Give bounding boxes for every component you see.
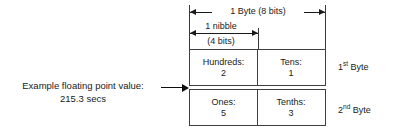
pointer-arrow-shaft [161,87,183,88]
extension-line-nibble [258,28,259,49]
byte-row-1: Hundreds: 2 Tens: 1 [189,49,326,86]
byte-dimension-label: 1 Byte (8 bits) [212,6,304,17]
nibble-ones-value: 5 [221,108,226,119]
extension-line-right [325,5,326,49]
byte-dimension-arrow-right-icon [319,9,325,15]
nibble-dimension-line [190,33,258,34]
diagram-canvas: 1 Byte (8 bits) 1 nibble (4 bits) Hundre… [0,0,407,132]
example-value-caption-line2: 215.3 secs [8,93,158,105]
nibble-hundreds-label: Hundreds: [203,57,245,68]
nibble-tenths-label: Tenths: [276,97,305,108]
nibble-tenths-value: 3 [288,108,293,119]
nibble-dimension-label-line1: 1 nibble [196,21,246,32]
nibble-hundreds-value: 2 [221,68,226,79]
nibble-dimension-label-line2: (4 bits) [196,36,246,47]
byte-1-label-suffix: Byte [348,62,369,72]
byte-1-side-label: 1st Byte [338,62,369,73]
nibble-ones: Ones: 5 [190,90,258,125]
byte-2-side-label: 2nd Byte [338,105,371,116]
nibble-ones-label: Ones: [211,97,235,108]
nibble-dimension-arrow-right-icon [252,30,258,36]
nibble-hundreds: Hundreds: 2 [190,50,258,85]
example-value-caption-line1: Example floating point value: [8,80,158,92]
byte-row-2: Ones: 5 Tenths: 3 [189,89,326,126]
nibble-tenths: Tenths: 3 [258,90,324,125]
pointer-arrow-head-icon [182,84,189,92]
nibble-tens-value: 1 [288,68,293,79]
nibble-tens: Tens: 1 [258,50,324,85]
nibble-tens-label: Tens: [280,57,302,68]
byte-2-label-suffix: Byte [350,105,371,115]
byte-dimension-arrow-left-icon [190,9,196,15]
